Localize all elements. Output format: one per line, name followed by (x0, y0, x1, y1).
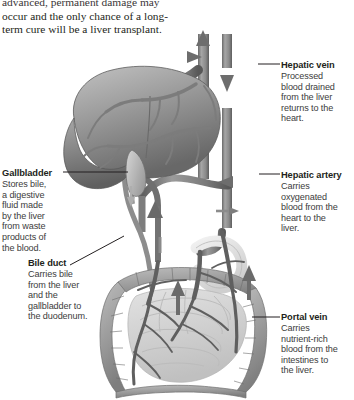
flow-arrow-top-left (155, 51, 202, 63)
callout-line: the duodenum. (28, 311, 114, 322)
callout-line: nutrient-rich (281, 334, 354, 345)
callout-line: intestines to (281, 355, 354, 366)
callout-hepatic-vein: Hepatic vein Processed blood drained fro… (281, 60, 354, 124)
callout-body-hepatic-artery: Carries oxygenated blood from the heart … (281, 181, 354, 234)
callout-gallbladder: Gallbladder Stores bile, a digestive flu… (2, 168, 80, 253)
intro-paragraph: advanced, permanent damage may occur and… (2, 0, 207, 37)
intro-line-1: advanced, permanent damage may (2, 0, 207, 10)
callout-line: by the liver (2, 211, 80, 222)
callout-hepatic-artery: Hepatic artery Carries oxygenated blood … (281, 170, 354, 234)
callout-body-gallbladder: Stores bile, a digestive fluid made by t… (2, 179, 80, 253)
callout-line: heart. (281, 113, 354, 124)
callout-line: blood from the (281, 344, 354, 355)
callout-line: gallbladder to (28, 301, 114, 312)
callout-portal-vein: Portal vein Carries nutrient-rich blood … (281, 312, 354, 376)
callout-line: Carries bile (28, 269, 114, 280)
callout-line: the blood. (2, 243, 80, 254)
callout-line: Processed (281, 71, 354, 82)
callout-line: fluid made (2, 200, 80, 211)
callout-title-bile-duct: Bile duct (28, 258, 114, 269)
callout-line: liver. (281, 223, 354, 234)
callout-title-hepatic-vein: Hepatic vein (281, 60, 354, 71)
callout-line: from the liver (28, 280, 114, 291)
portal-vein-vessel (140, 176, 222, 262)
callout-body-bile-duct: Carries bile from the liver and the gall… (28, 269, 114, 322)
callout-line: Carries (281, 323, 354, 334)
callout-line: heart to the (281, 213, 354, 224)
callout-line: blood from the (281, 202, 354, 213)
callout-title-gallbladder: Gallbladder (2, 168, 80, 179)
callout-line: the liver. (281, 365, 354, 376)
callout-line: oxygenated (281, 192, 354, 203)
callout-line: and the (28, 290, 114, 301)
intro-line-2: occur and the only chance of a long- (2, 10, 207, 24)
diagram-canvas: advanced, permanent damage may occur and… (0, 0, 354, 400)
callout-line: a digestive (2, 190, 80, 201)
small-intestine (128, 289, 246, 383)
callout-body-hepatic-vein: Processed blood drained from the liver r… (281, 71, 354, 124)
callout-title-portal-vein: Portal vein (281, 312, 354, 323)
callout-title-hepatic-artery: Hepatic artery (281, 170, 354, 181)
callout-line: from waste (2, 221, 80, 232)
callout-line: returns to the (281, 103, 354, 114)
callout-line: Stores bile, (2, 179, 80, 190)
intro-line-3: term cure will be a liver transplant. (2, 23, 207, 37)
callout-bile-duct: Bile duct Carries bile from the liver an… (28, 258, 114, 322)
callout-line: Carries (281, 181, 354, 192)
callout-line: blood drained (281, 82, 354, 93)
liver (64, 66, 221, 196)
callout-line: from the liver (281, 92, 354, 103)
callout-line: products of (2, 232, 80, 243)
callout-body-portal-vein: Carries nutrient-rich blood from the int… (281, 323, 354, 376)
